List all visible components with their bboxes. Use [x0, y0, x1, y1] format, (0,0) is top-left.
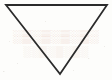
line-art-layer	[0, 0, 112, 80]
triangle-shape	[6, 5, 107, 74]
figure-canvas: ░▒░▒░▒░▒░ ░░▒░▒░▒░	[0, 0, 112, 80]
triangle-svg	[0, 0, 112, 80]
